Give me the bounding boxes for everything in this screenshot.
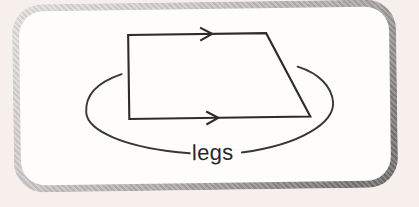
trapezoid-shape [128, 33, 310, 120]
legs-oval-right-arc [241, 66, 334, 152]
callout-box: legs [19, 6, 391, 185]
trapezoid-legs-diagram: legs [19, 6, 391, 185]
legs-label: legs [192, 140, 234, 166]
page-background: legs [0, 0, 419, 207]
callout-frame: legs [12, 0, 399, 193]
legs-oval-left-arc [86, 73, 190, 154]
